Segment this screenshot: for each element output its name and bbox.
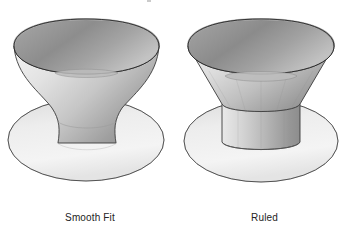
smooth-fit-surface-svg — [0, 0, 180, 205]
figure-panel-smooth-fit: Smooth Fit — [0, 0, 180, 237]
surface-render-smooth-fit — [0, 0, 180, 205]
caption-ruled: Ruled — [178, 211, 351, 224]
ruled-surface-svg — [178, 0, 351, 205]
figure-panel-ruled: Ruled — [178, 0, 351, 237]
caption-smooth-fit: Smooth Fit — [0, 211, 180, 224]
figure-root: Smooth Fit — [0, 0, 351, 237]
surface-render-ruled — [178, 0, 351, 205]
